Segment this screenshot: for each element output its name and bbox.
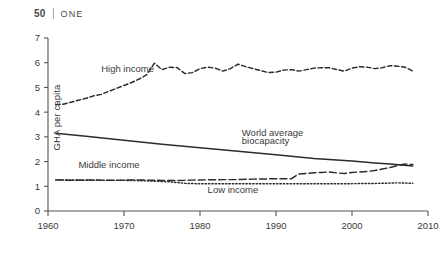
x-tick-label-2000: 2000 bbox=[341, 220, 362, 231]
x-tick-label-1980: 1980 bbox=[189, 220, 210, 231]
figure-chart: GHA per capita 0123456719601970198019902… bbox=[0, 26, 441, 257]
annotation-high-income: High income bbox=[101, 63, 154, 74]
annotation-middle-income: Middle income bbox=[78, 159, 139, 170]
y-tick-label-1: 1 bbox=[35, 181, 40, 192]
x-tick-label-1970: 1970 bbox=[113, 220, 134, 231]
y-tick-label-0: 0 bbox=[35, 205, 40, 216]
y-tick-label-4: 4 bbox=[35, 107, 40, 118]
annotation-low-income: Low income bbox=[208, 184, 259, 195]
annotation-biocapacity: biocapacity bbox=[242, 135, 290, 146]
chapter-label: ONE bbox=[61, 9, 84, 19]
y-tick-label-3: 3 bbox=[35, 131, 40, 142]
line-chart-plot: 01234567196019701980199020002010High inc… bbox=[0, 26, 441, 257]
page-folio: 50 bbox=[34, 8, 46, 19]
y-tick-label-6: 6 bbox=[35, 57, 40, 68]
y-axis-label: GHA per capita bbox=[51, 58, 62, 178]
page-canvas: 50 ONE GHA per capita 012345671960197019… bbox=[0, 0, 441, 257]
running-head: 50 ONE bbox=[34, 8, 84, 19]
x-tick-label-1990: 1990 bbox=[265, 220, 286, 231]
y-tick-label-5: 5 bbox=[35, 82, 40, 93]
x-tick-label-2010: 2010 bbox=[417, 220, 438, 231]
running-head-divider bbox=[53, 8, 54, 19]
y-tick-label-2: 2 bbox=[35, 156, 40, 167]
x-tick-label-1960: 1960 bbox=[37, 220, 58, 231]
y-tick-label-7: 7 bbox=[35, 32, 40, 43]
